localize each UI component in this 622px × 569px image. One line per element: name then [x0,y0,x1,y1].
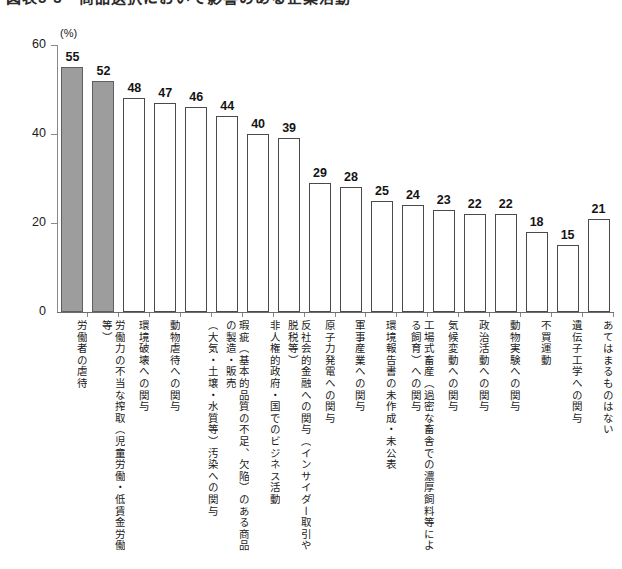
bar-slot: 40 [243,45,274,312]
category-label: 遺伝子工学への関与 [553,320,583,424]
x-axis-tick [582,313,583,317]
bar-value-label: 24 [397,188,428,202]
bar-value-label: 18 [521,215,552,229]
bar-value-label: 47 [150,86,181,100]
category-label: 政治活動への関与 [460,320,490,413]
x-axis-tick [489,313,490,317]
bar[interactable] [464,214,486,312]
bar-slot: 15 [552,45,583,312]
x-axis-tick [458,313,459,317]
bar-slot: 46 [181,45,212,312]
x-axis-tick [211,313,212,317]
bar[interactable] [216,116,238,312]
bar-slot: 47 [150,45,181,312]
category-label: 不買運動 [522,320,552,366]
x-axis-tick [613,313,614,317]
bar[interactable] [278,138,300,312]
bar[interactable] [247,134,269,312]
bar-slot: 29 [305,45,336,312]
bar[interactable] [185,107,207,312]
x-axis-tick [520,313,521,317]
bar[interactable] [588,219,610,312]
bar-slot: 52 [88,45,119,312]
category-label: 環境破壊への関与 [119,320,149,413]
bar-value-label: 46 [181,90,212,104]
bar-value-label: 23 [428,193,459,207]
bar-value-label: 52 [88,64,119,78]
bar[interactable] [154,103,176,312]
category-label: 軍事産業への関与 [336,320,366,413]
y-axis-tick-label: 20 [6,216,46,228]
x-axis-tick [551,313,552,317]
bar-slot: 24 [397,45,428,312]
x-axis-tick [365,313,366,317]
bar-slot: 22 [490,45,521,312]
x-axis-tick [396,313,397,317]
bar-value-label: 21 [583,202,614,216]
bar-slot: 22 [459,45,490,312]
bar[interactable] [92,81,114,312]
x-axis-tick [304,313,305,317]
bar-value-label: 29 [305,166,336,180]
bar-value-label: 40 [243,117,274,131]
y-axis-tick-label: 60 [6,38,46,50]
x-axis-tick [149,313,150,317]
bar-value-label: 48 [119,81,150,95]
x-axis-tick [242,313,243,317]
x-axis-tick [180,313,181,317]
bar[interactable] [340,187,362,312]
bar[interactable] [371,201,393,312]
y-axis-tick-label: 40 [6,127,46,139]
bar-value-label: 22 [490,197,521,211]
x-axis-tick [118,313,119,317]
bar-chart: (%) 0204060 5552484746444039292825242322… [0,0,622,569]
bar[interactable] [557,245,579,312]
category-label: 動物実験への関与 [491,320,521,413]
bar[interactable] [402,205,424,312]
bar[interactable] [526,232,548,312]
bar[interactable] [309,183,331,312]
category-label: 原子力発電への関与 [305,320,335,424]
y-axis-tick-label: 0 [6,305,46,317]
plot-area: 555248474644403929282524232222181521 [57,45,614,312]
x-axis-tick [87,313,88,317]
bar-value-label: 55 [57,50,88,64]
bar-slot: 55 [57,45,88,312]
bar[interactable] [61,67,83,312]
x-axis-baseline [57,312,614,313]
bar[interactable] [495,214,517,312]
y-axis-unit-label: (%) [60,27,77,39]
bar-value-label: 28 [336,170,367,184]
bar-value-label: 15 [552,228,583,242]
bar-value-label: 39 [274,121,305,135]
x-axis-tick [273,313,274,317]
category-label: 気候変動への関与 [429,320,459,413]
bar-slot: 39 [274,45,305,312]
x-axis-tick [427,313,428,317]
bar-slot: 25 [366,45,397,312]
bar-value-label: 22 [459,197,490,211]
x-axis-tick [335,313,336,317]
bar-slot: 28 [336,45,367,312]
bar[interactable] [123,98,145,312]
bar-slot: 44 [212,45,243,312]
bar[interactable] [433,210,455,312]
bar-value-label: 25 [366,184,397,198]
bar-slot: 23 [428,45,459,312]
bar-slot: 21 [583,45,614,312]
bar-slot: 18 [521,45,552,312]
category-label: あてはまるものはない [584,320,614,436]
bar-slot: 48 [119,45,150,312]
bar-value-label: 44 [212,99,243,113]
